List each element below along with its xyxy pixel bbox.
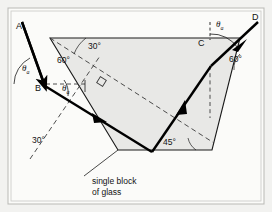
- physics-diagram-svg: [0, 0, 272, 212]
- figure-root: A B C D θa θa θa 30° 60° 30° 45° 60° sin…: [0, 0, 272, 212]
